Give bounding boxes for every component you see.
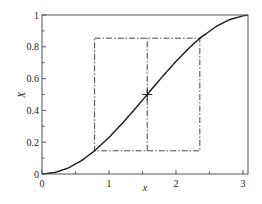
y-tick-label: 0.2 [27, 137, 40, 148]
y-axis-label: X [16, 91, 27, 99]
x-tick-label: 0 [40, 178, 45, 189]
y-tick-label: 0.8 [27, 41, 40, 52]
x-axis-label: x [142, 182, 148, 193]
y-tick-label: 0 [34, 169, 39, 180]
y-tick-label: 1 [34, 10, 39, 21]
x-tick-label: 2 [173, 178, 178, 189]
y-tick-label: 0.6 [27, 73, 40, 84]
x-tick-label: 1 [106, 178, 111, 189]
y-axis-ticks: 00.20.40.60.81 [27, 10, 47, 180]
y-tick-label: 0.4 [27, 105, 40, 116]
chart: 0123 00.20.40.60.81 x X [0, 0, 262, 204]
x-tick-label: 3 [240, 178, 245, 189]
